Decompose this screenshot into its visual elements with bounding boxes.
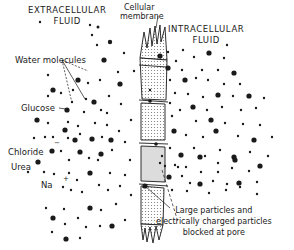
intracellular-fluid-label: INTRACELLULAR FLUID: [168, 25, 244, 44]
membrane-diagram: EXTRACELLULAR FLUID Cellular membrane IN…: [0, 0, 294, 250]
water-molecules-label: Water molecules: [15, 56, 86, 65]
blocked-particles-label: Large particles and electrically charged…: [156, 205, 272, 238]
sodium-label: Na: [41, 181, 53, 190]
chloride-label: Chloride: [8, 148, 43, 157]
extracellular-particles: [27, 21, 135, 242]
chloride-charge: −: [54, 140, 60, 147]
extracellular-fluid-label: EXTRACELLULAR FLUID: [28, 6, 107, 25]
cellular-membrane-label: Cellular membrane: [120, 4, 164, 21]
urea-label: Urea: [11, 163, 31, 172]
intracellular-particles: [149, 44, 273, 195]
sodium-charge: +: [63, 176, 69, 183]
glucose-label: Glucose: [21, 104, 55, 113]
